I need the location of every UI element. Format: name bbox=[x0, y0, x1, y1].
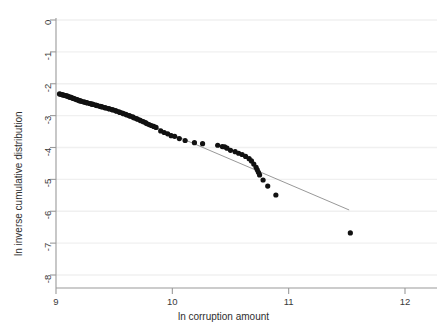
data-point bbox=[348, 230, 353, 235]
x-tick-label: 9 bbox=[36, 297, 76, 307]
data-point bbox=[153, 125, 158, 130]
data-point bbox=[228, 148, 233, 153]
y-tick-label: -8 bbox=[43, 275, 53, 315]
data-point bbox=[200, 141, 205, 146]
data-points-group bbox=[57, 91, 353, 235]
x-axis-ticks bbox=[56, 288, 405, 294]
x-tick-label: 12 bbox=[385, 297, 425, 307]
x-tick-label: 10 bbox=[152, 297, 192, 307]
data-point bbox=[192, 140, 197, 145]
x-axis-title: ln corruption amount bbox=[0, 312, 447, 322]
chart-figure: 0-1-2-3-4-5-6-7-8 9101112 ln corruption … bbox=[0, 0, 447, 332]
gridlines-group bbox=[56, 20, 437, 275]
x-tick-label: 11 bbox=[269, 297, 309, 307]
data-point bbox=[273, 192, 278, 197]
scatter-plot-canvas bbox=[0, 0, 447, 332]
y-axis-title: ln inverse cumulative distribution bbox=[14, 111, 24, 256]
data-point bbox=[215, 143, 220, 148]
data-point bbox=[257, 172, 262, 177]
data-point bbox=[177, 136, 182, 141]
data-point bbox=[183, 138, 188, 143]
data-point bbox=[260, 177, 265, 182]
data-point bbox=[172, 134, 177, 139]
data-point bbox=[265, 183, 270, 188]
